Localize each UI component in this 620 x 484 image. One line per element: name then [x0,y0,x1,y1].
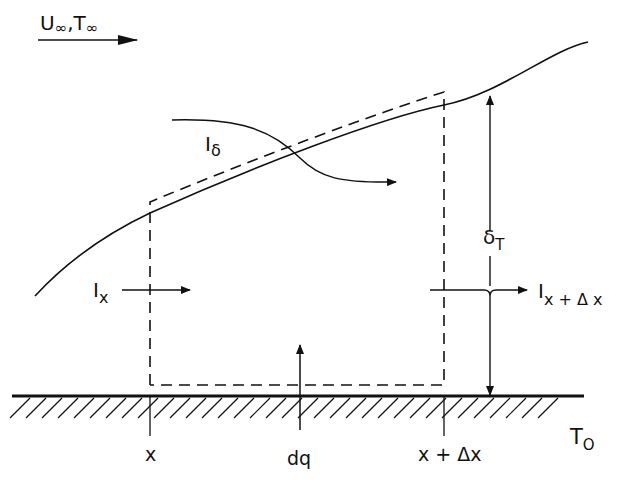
i-delta-label: Iδ [205,132,221,160]
t0-label: TO [569,425,595,454]
control-volume [150,92,444,385]
freestream-label: U∞,T∞ [40,11,98,37]
dq-label: dq [287,447,311,469]
boundary-layer-edge-curve [35,42,588,296]
x-label: x [145,443,156,465]
i-x-label: Ix [93,278,108,307]
x-dx-label: x + Δx [418,443,482,465]
wall-hatching [10,398,558,418]
boundary-layer-diagram: U∞,T∞ Iδ δT Ix Ix + Δ x [0,0,620,484]
i-x-dx-label: Ix + Δ x [538,279,602,309]
delta-t-label: δT [483,225,505,254]
